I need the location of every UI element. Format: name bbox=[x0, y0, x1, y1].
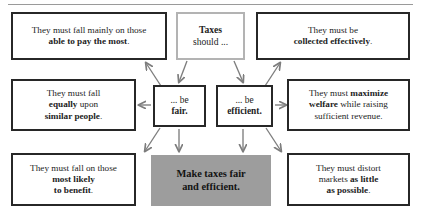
goal-line-1: Make taxes fair bbox=[176, 168, 245, 179]
node-collected-effectively: They must be collected effectively. bbox=[256, 12, 410, 60]
node-maximize-welfare: They must maximize welfare while raising… bbox=[287, 79, 410, 131]
ability-period: . bbox=[127, 36, 129, 46]
fair-line-2: fair. bbox=[171, 106, 187, 116]
arrow-efficient-to-collected bbox=[265, 63, 280, 86]
welfare-maximize: maximize bbox=[350, 88, 388, 98]
taxes-line-2: should ... bbox=[193, 36, 228, 47]
arrow-taxes-to-fair bbox=[179, 61, 187, 82]
benefit-line-2: most likely bbox=[52, 174, 95, 184]
benefit-period: . bbox=[91, 185, 93, 195]
collected-line-1: They must be bbox=[308, 25, 358, 35]
equally-word: equally bbox=[49, 99, 78, 109]
welfare-line-3: sufficient revenue. bbox=[314, 111, 382, 121]
collected-line-2: collected effectively bbox=[294, 36, 370, 46]
node-equally-similar-people: They must fall equally upon similar peop… bbox=[11, 79, 136, 131]
equally-period: . bbox=[100, 111, 102, 121]
arrow-taxes-to-efficient bbox=[234, 61, 243, 82]
distort-as-little: as little bbox=[350, 174, 378, 184]
equally-line-3: similar people bbox=[45, 111, 100, 121]
top-divider-rule bbox=[8, 4, 413, 5]
arrow-fair-to-ability bbox=[146, 63, 161, 86]
goal-line-2: and efficient. bbox=[182, 181, 240, 192]
arrow-efficient-to-distort bbox=[266, 128, 281, 151]
distort-period: . bbox=[368, 185, 370, 195]
arrow-fair-to-benefit bbox=[145, 128, 160, 151]
ability-line-1: They must fall mainly on those bbox=[32, 25, 147, 35]
benefit-line-1: They must fall on those bbox=[30, 163, 117, 173]
node-goal-make-taxes-fair-and-efficient: Make taxes fair and efficient. bbox=[151, 155, 271, 206]
node-distort-markets-least: They must distort markets as little as p… bbox=[287, 153, 410, 206]
welfare-line-1-pre: They must bbox=[309, 88, 350, 98]
collected-period: . bbox=[370, 36, 372, 46]
fair-line-1: ... be bbox=[170, 95, 188, 105]
efficient-line-2: efficient. bbox=[227, 106, 262, 116]
distort-line-3: as possible bbox=[327, 185, 369, 195]
distort-line-1: They must distort bbox=[316, 163, 381, 173]
welfare-word: welfare bbox=[309, 99, 338, 109]
node-ability-to-pay: They must fall mainly on those able to p… bbox=[11, 12, 167, 60]
node-taxes-should: Taxes should ... bbox=[176, 12, 245, 60]
node-most-likely-to-benefit: They must fall on those most likely to b… bbox=[11, 153, 136, 206]
welfare-line-2-rest: while raising bbox=[338, 99, 388, 109]
equally-line-1: They must fall bbox=[47, 88, 101, 98]
benefit-line-3: to benefit bbox=[54, 185, 91, 195]
node-be-efficient: ... be efficient. bbox=[216, 85, 273, 127]
efficient-line-1: ... be bbox=[235, 95, 253, 105]
ability-line-2: able to pay the most bbox=[49, 36, 128, 46]
node-be-fair: ... be fair. bbox=[153, 85, 206, 127]
taxes-line-1: Taxes bbox=[199, 24, 222, 35]
equally-line-2-rest: upon bbox=[77, 99, 98, 109]
tax-principles-diagram: They must fall mainly on those able to p… bbox=[0, 0, 421, 221]
distort-line-2-pre: markets bbox=[319, 174, 350, 184]
